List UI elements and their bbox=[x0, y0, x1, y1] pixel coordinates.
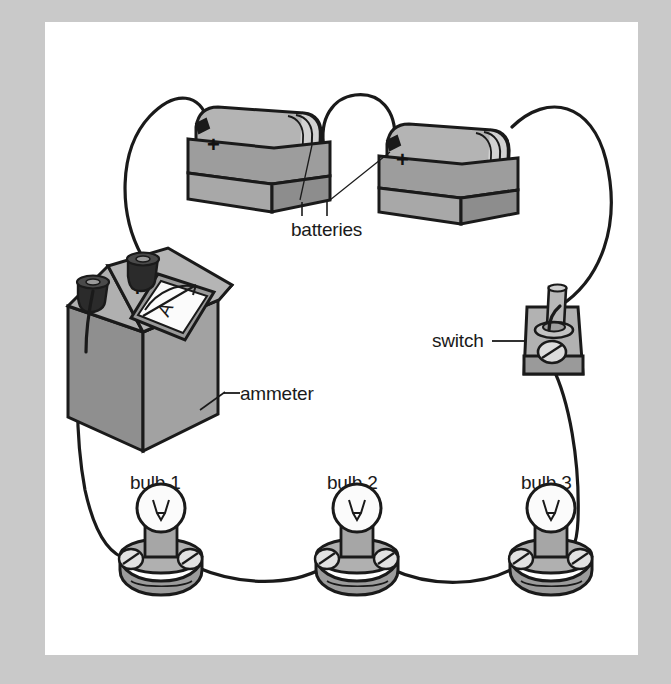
battery-2-plus-mark: + bbox=[396, 147, 409, 172]
bulb-2[interactable]: bulb 2 bbox=[315, 472, 398, 595]
battery-1-plus-mark: + bbox=[207, 132, 220, 157]
ammeter-knob-left-screwhole bbox=[86, 279, 100, 285]
battery-2[interactable]: + bbox=[330, 124, 518, 224]
switch-label-group: switch bbox=[432, 330, 524, 351]
wire-bulb2-to-bulb3 bbox=[391, 567, 516, 582]
diagram-page: + + batteries bbox=[0, 0, 671, 684]
switch-collar-inner bbox=[543, 323, 565, 332]
bulb-1-glass bbox=[137, 484, 185, 532]
ammeter[interactable]: A + bbox=[68, 248, 232, 451]
bulb-2-glass bbox=[333, 484, 381, 532]
wire-battery1-to-battery2 bbox=[323, 95, 395, 148]
switch-lever-cap bbox=[549, 285, 567, 292]
ammeter-knob-top-screwhole bbox=[136, 256, 150, 262]
ammeter-label: ammeter bbox=[240, 383, 314, 404]
battery-1[interactable]: + bbox=[188, 107, 330, 212]
bulb-3-glass bbox=[527, 484, 575, 532]
batteries-label: batteries bbox=[291, 219, 362, 240]
bulb-1[interactable]: bulb 1 bbox=[119, 472, 202, 595]
switch[interactable] bbox=[524, 285, 583, 375]
ammeter-terminal-knob-top[interactable] bbox=[127, 253, 159, 291]
wire-battery2-to-switch bbox=[512, 107, 611, 306]
batteries-label-group: batteries bbox=[291, 202, 362, 240]
wire-bulb1-to-bulb2 bbox=[196, 567, 323, 581]
circuit-diagram-svg: + + batteries bbox=[0, 0, 671, 684]
switch-label: switch bbox=[432, 330, 484, 351]
